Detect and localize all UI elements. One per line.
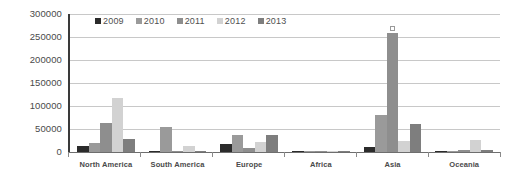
legend-label: 2009: [103, 16, 124, 26]
bar-slot: [470, 14, 482, 152]
x-axis-tick: [284, 152, 285, 157]
bar-slot: [255, 14, 267, 152]
y-tick-label: 150000: [2, 78, 62, 87]
bar-slot: [387, 14, 399, 152]
bar-slot: [338, 14, 350, 152]
y-tick-label: 50000: [2, 124, 62, 133]
bar-slot: [89, 14, 101, 152]
legend-label: 2013: [266, 16, 287, 26]
bar-groups: [70, 14, 500, 152]
bar-2009-south-america[interactable]: [149, 151, 161, 152]
legend-item[interactable]: 2009: [95, 16, 124, 26]
bar-slot: [375, 14, 387, 152]
bar-slot: [435, 14, 447, 152]
bar-2012-asia[interactable]: [398, 141, 410, 153]
bar-2010-oceania[interactable]: [447, 151, 459, 152]
bar-2009-europe[interactable]: [220, 144, 232, 152]
category-label: Oceania: [428, 160, 500, 169]
bar-2010-north-america[interactable]: [89, 143, 101, 152]
chart-legend: 20092010201120122013: [95, 16, 286, 26]
bar-slot: [458, 14, 470, 152]
bar-slot: [327, 14, 339, 152]
legend-label: 2010: [144, 16, 165, 26]
bar-2011-north-america[interactable]: [100, 123, 112, 152]
asia-2011-peak-marker-icon: [390, 26, 395, 31]
bar-2009-africa[interactable]: [292, 151, 304, 152]
category-label: North America: [70, 160, 142, 169]
legend-item[interactable]: 2011: [177, 16, 205, 26]
bar-slot: [481, 14, 493, 152]
bar-slot: [243, 14, 255, 152]
bar-2012-oceania[interactable]: [470, 140, 482, 152]
y-tick-label: 200000: [2, 55, 62, 64]
bar-slot: [232, 14, 244, 152]
bar-2009-oceania[interactable]: [435, 151, 447, 152]
bar-slot: [447, 14, 459, 152]
legend-swatch-icon: [177, 18, 183, 24]
x-axis-tick: [140, 152, 141, 157]
legend-item[interactable]: 2012: [217, 16, 246, 26]
bar-2011-asia[interactable]: [387, 33, 399, 152]
legend-swatch-icon: [136, 18, 142, 24]
bar-group: [357, 14, 429, 152]
bar-2011-africa[interactable]: [315, 151, 327, 152]
bar-group: [213, 14, 285, 152]
bar-slot: [364, 14, 376, 152]
x-axis-category-labels: North AmericaSouth AmericaEuropeAfricaAs…: [70, 160, 500, 169]
bar-2011-south-america[interactable]: [172, 151, 184, 152]
bar-2012-europe[interactable]: [255, 142, 267, 152]
bar-2012-africa[interactable]: [327, 151, 339, 152]
bar-2011-oceania[interactable]: [458, 150, 470, 152]
legend-swatch-icon: [95, 18, 101, 24]
bar-2012-north-america[interactable]: [112, 98, 124, 152]
bar-slot: [398, 14, 410, 152]
bar-slot: [100, 14, 112, 152]
legend-swatch-icon: [217, 18, 223, 24]
category-label: Europe: [213, 160, 285, 169]
x-axis-tick: [356, 152, 357, 157]
bar-slot: [220, 14, 232, 152]
bar-slot: [292, 14, 304, 152]
bar-2013-asia[interactable]: [410, 124, 422, 152]
bar-slot: [315, 14, 327, 152]
bar-slot: [410, 14, 422, 152]
bar-slot: [195, 14, 207, 152]
category-label: South America: [142, 160, 214, 169]
bar-slot: [304, 14, 316, 152]
bar-slot: [172, 14, 184, 152]
legend-label: 2012: [225, 16, 246, 26]
y-tick-label: 300000: [2, 9, 62, 18]
bar-group: [428, 14, 500, 152]
bar-group: [142, 14, 214, 152]
y-tick-label: 0: [2, 147, 62, 156]
bar-2013-europe[interactable]: [266, 135, 278, 152]
bar-2012-south-america[interactable]: [183, 146, 195, 152]
bar-2010-europe[interactable]: [232, 135, 244, 152]
bar-2013-north-america[interactable]: [123, 139, 135, 152]
bar-2010-asia[interactable]: [375, 115, 387, 152]
bar-2013-oceania[interactable]: [481, 150, 493, 152]
bar-2009-north-america[interactable]: [77, 146, 89, 152]
bar-slot: [183, 14, 195, 152]
legend-item[interactable]: 2013: [258, 16, 287, 26]
legend-swatch-icon: [258, 18, 264, 24]
bar-2013-south-america[interactable]: [195, 151, 207, 152]
bar-slot: [149, 14, 161, 152]
bar-group: [285, 14, 357, 152]
bar-2011-europe[interactable]: [243, 148, 255, 152]
bar-slot: [266, 14, 278, 152]
bar-2013-africa[interactable]: [338, 151, 350, 152]
bar-2010-south-america[interactable]: [160, 127, 172, 152]
legend-item[interactable]: 2010: [136, 16, 165, 26]
bar-2010-africa[interactable]: [304, 151, 316, 152]
category-label: Asia: [357, 160, 429, 169]
bar-2009-asia[interactable]: [364, 147, 376, 152]
y-tick-label: 100000: [2, 101, 62, 110]
x-axis-tick: [428, 152, 429, 157]
bar-slot: [112, 14, 124, 152]
y-tick-label: 250000: [2, 32, 62, 41]
x-axis-tick: [500, 152, 501, 157]
category-label: Africa: [285, 160, 357, 169]
bar-slot: [160, 14, 172, 152]
x-axis-tick: [212, 152, 213, 157]
